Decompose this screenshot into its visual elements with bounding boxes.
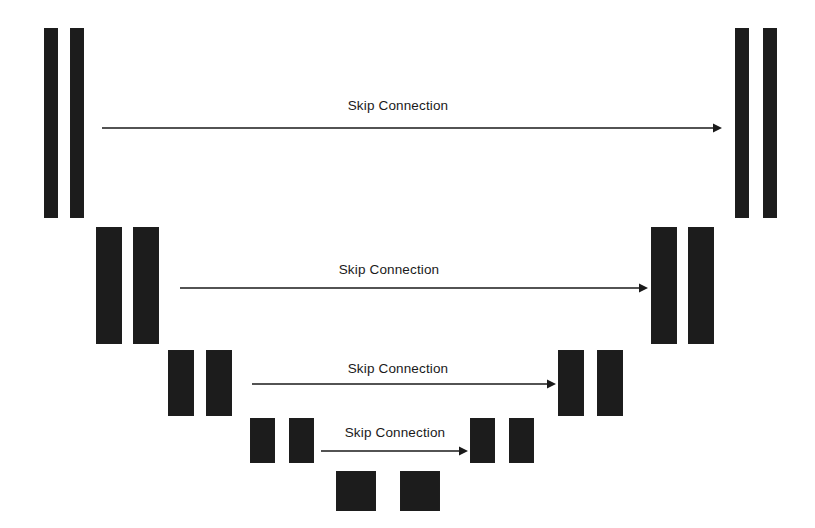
skip-connection-label-1: Skip Connection [348, 98, 449, 113]
skip-connection-label-2: Skip Connection [339, 262, 440, 277]
unet-diagram: Skip ConnectionSkip ConnectionSkip Conne… [0, 0, 815, 528]
skip-connection-label-4: Skip Connection [345, 425, 446, 440]
decoder-block-4a [470, 418, 495, 463]
encoder-block-4a [250, 418, 275, 463]
decoder-block-3b [597, 350, 623, 416]
decoder-block-1a [735, 28, 749, 218]
encoder-block-2b [133, 227, 159, 344]
decoder-block-4b [509, 418, 534, 463]
skip-connection-label-3: Skip Connection [348, 361, 449, 376]
skip-connection-arrow-4 [321, 444, 468, 458]
decoder-block-1b [763, 28, 777, 218]
encoder-block-1a [44, 28, 58, 218]
encoder-block-3a [168, 350, 194, 416]
skip-connection-arrow-3 [252, 377, 556, 391]
bottleneck-block-a [336, 471, 376, 511]
decoder-block-3a [558, 350, 584, 416]
encoder-block-2a [96, 227, 122, 344]
skip-connection-arrow-2 [180, 281, 648, 295]
skip-connection-arrow-1 [102, 121, 722, 135]
encoder-block-3b [206, 350, 232, 416]
bottleneck-block-b [400, 471, 440, 511]
decoder-block-2a [651, 227, 677, 344]
decoder-block-2b [688, 227, 714, 344]
encoder-block-1b [70, 28, 84, 218]
encoder-block-4b [289, 418, 314, 463]
